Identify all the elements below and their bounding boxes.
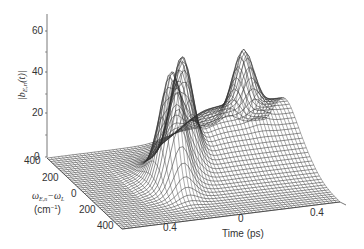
y-tick-400a: 400 [24,155,41,166]
y-tick-200a: 200 [42,172,59,183]
z-tick-40: 40 [32,66,44,77]
z-axis: 0 20 40 60 |bE,n(t)| [16,14,47,162]
svg-text:|bE,n(t)|: |bE,n(t)| [16,71,29,100]
z-tick-20: 20 [32,107,44,118]
y-tick-0: 0 [71,188,77,199]
svg-text:ωE,n−ωL: ωE,n−ωL [32,190,65,202]
y-tick-200b: 200 [79,204,96,215]
surface-plot: 0 20 40 60 |bE,n(t)| 400 200 0 200 400 ω… [0,0,364,249]
x-axis: 0.4 0 0.4 Time (ps) [122,202,346,239]
x-axis-label: Time (ps) [222,228,264,239]
wireframe-surface [47,49,340,229]
y-axis-label: ωE,n−ωL (cm−1) [32,190,65,215]
z-tick-60: 60 [32,25,44,36]
y-tick-400b: 400 [97,220,114,231]
x-tick-0.4b: 0.4 [310,207,324,218]
svg-text:(cm−1): (cm−1) [34,204,61,215]
z-axis-label: |bE,n(t)| [16,71,29,100]
